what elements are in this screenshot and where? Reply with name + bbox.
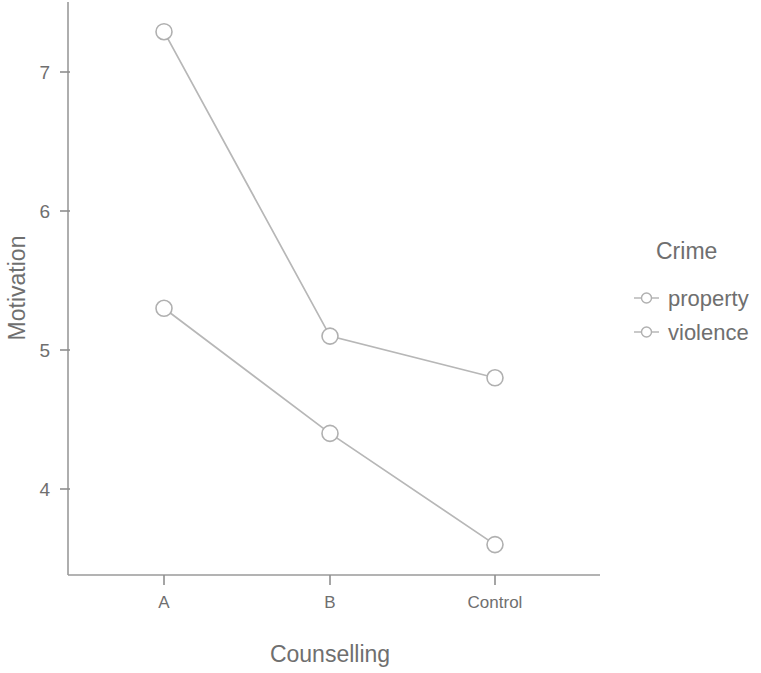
- x-tick-label-b: B: [324, 593, 335, 612]
- data-point-property-b: [322, 328, 338, 344]
- data-point-violence-control: [487, 537, 503, 553]
- legend-item-violence[interactable]: violence: [634, 320, 749, 345]
- x-tick-label-a: A: [158, 593, 170, 612]
- chart-legend: Crime property violence: [634, 238, 749, 345]
- legend-item-property[interactable]: property: [634, 286, 749, 311]
- data-point-violence-b: [322, 425, 338, 441]
- y-tick-label-5: 5: [39, 340, 50, 361]
- chart-figure: 7 6 5 4 A B Control Counselling Motivati…: [0, 0, 761, 673]
- series-property-line: [164, 32, 495, 378]
- series-property-markers: [156, 24, 503, 386]
- series-property: [156, 24, 503, 386]
- x-axis-title: Counselling: [270, 641, 390, 667]
- data-point-property-control: [487, 370, 503, 386]
- y-axis-title: Motivation: [4, 236, 30, 341]
- legend-label-property: property: [668, 286, 749, 311]
- x-tick-label-control: Control: [468, 593, 523, 612]
- data-point-violence-a: [156, 300, 172, 316]
- y-tick-label-6: 6: [39, 201, 50, 222]
- data-point-property-a: [156, 24, 172, 40]
- legend-key-marker-violence: [642, 327, 652, 337]
- legend-label-violence: violence: [668, 320, 749, 345]
- legend-title: Crime: [656, 238, 717, 264]
- legend-key-marker-property: [642, 293, 652, 303]
- line-chart-canvas: 7 6 5 4 A B Control Counselling Motivati…: [0, 0, 761, 673]
- x-axis-ticks: [164, 575, 495, 585]
- y-tick-label-7: 7: [39, 62, 50, 83]
- y-tick-label-4: 4: [39, 479, 50, 500]
